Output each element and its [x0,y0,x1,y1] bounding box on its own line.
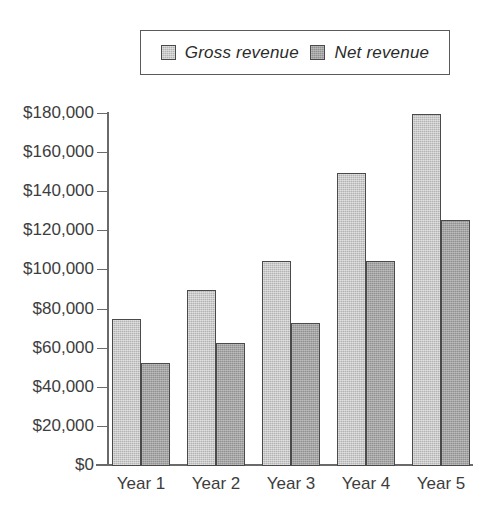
x-axis-tick-label: Year 1 [117,474,166,494]
bar-net-year-1 [141,363,170,466]
x-axis-tick-label: Year 3 [267,474,316,494]
bar-chart: $0$20,000$40,000$60,000$80,000$100,000$1… [0,0,495,528]
bar-gross-year-4 [337,173,366,466]
bar-net-year-3 [291,323,320,466]
bar-net-year-5 [441,220,470,466]
bar-gross-year-5 [412,114,441,466]
bar-gross-year-2 [187,290,216,466]
x-axis-tick-label: Year 4 [342,474,391,494]
bar-gross-year-1 [112,319,141,466]
bar-net-year-2 [216,343,245,466]
bar-series-group [0,0,495,528]
x-axis-tick-label: Year 5 [417,474,466,494]
bar-net-year-4 [366,261,395,466]
x-axis-tick-label: Year 2 [192,474,241,494]
bar-gross-year-3 [262,261,291,466]
